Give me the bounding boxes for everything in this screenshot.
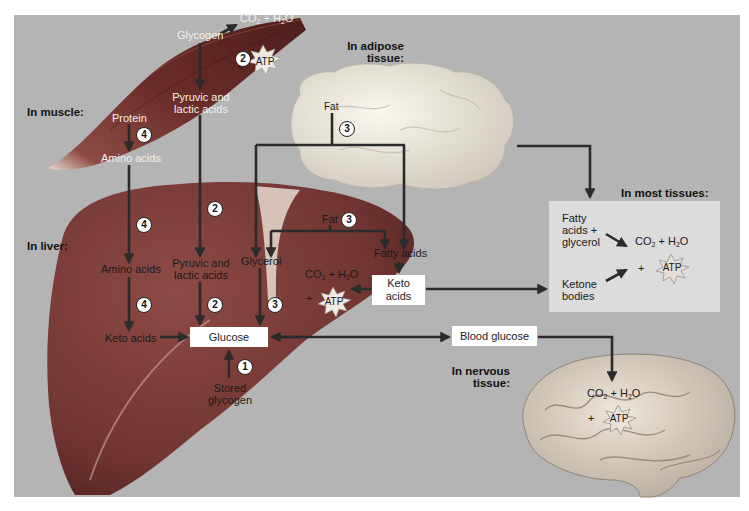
step-2-muscle-glycogen: 2 bbox=[235, 51, 251, 67]
most-tissues-products-label: CO2 + H2O bbox=[635, 235, 688, 251]
region-label-adipose-line1: In adipose bbox=[342, 40, 404, 52]
most-tissues-fatty-line1: Fatty bbox=[562, 212, 600, 224]
keto-acids-box: Keto acids bbox=[372, 275, 425, 305]
muscle-glycogen-label: Glycogen bbox=[177, 29, 223, 41]
step-4-muscle-protein: 4 bbox=[136, 127, 152, 143]
stored-glycogen-label: Stored glycogen bbox=[208, 382, 252, 406]
nervous-atp-label: ATP bbox=[609, 413, 629, 425]
region-label-most-tissues: In most tissues: bbox=[621, 187, 709, 199]
liver-keto-acids-label: Keto acids bbox=[105, 332, 156, 344]
muscle-protein-label: Protein bbox=[112, 112, 147, 124]
keto-acids-box-line1: Keto bbox=[386, 277, 412, 290]
region-label-nervous: In nervous tissue: bbox=[446, 365, 510, 389]
most-tissues-fatty-line3: glycerol bbox=[562, 236, 600, 248]
most-tissues-ketone-line1: Ketone bbox=[562, 278, 597, 290]
region-label-muscle: In muscle: bbox=[27, 106, 84, 118]
most-tissues-ketone-label: Ketone bodies bbox=[562, 278, 597, 302]
step-4-amino-to-keto: 4 bbox=[136, 297, 152, 313]
blood-glucose-box: Blood glucose bbox=[452, 326, 537, 346]
liver-pyruvic-line1: Pyruvic and bbox=[170, 257, 232, 269]
adipose-illustration bbox=[291, 63, 514, 189]
muscle-pyruvic-line2: lactic acids bbox=[170, 103, 232, 115]
muscle-pyruvic-line1: Pyruvic and bbox=[170, 91, 232, 103]
liver-fatty-acids-label: Fatty acids bbox=[374, 247, 427, 259]
step-1-glycogen-to-glucose: 1 bbox=[237, 359, 253, 375]
region-label-nervous-line2: tissue: bbox=[446, 377, 510, 389]
stored-glycogen-line1: Stored bbox=[208, 382, 252, 394]
stored-glycogen-line2: glycogen bbox=[208, 394, 252, 406]
muscle-pyruvic-label: Pyruvic and lactic acids bbox=[170, 91, 232, 115]
liver-glycerol-label: Glycerol bbox=[241, 255, 281, 267]
glucose-box: Glucose bbox=[190, 327, 268, 347]
most-tissues-plus: + bbox=[638, 262, 644, 274]
liver-pyruvic-label: Pyruvic and lactic acids bbox=[170, 257, 232, 281]
muscle-products-label: CO2 + H2O bbox=[240, 12, 293, 28]
most-tissues-atp-label: ATP bbox=[662, 262, 682, 274]
liver-amino-acids-label: Amino acids bbox=[101, 263, 161, 275]
most-tissues-ketone-line2: bodies bbox=[562, 290, 597, 302]
region-label-adipose: In adipose tissue: bbox=[342, 40, 404, 64]
muscle-atp-label: ATP bbox=[255, 56, 275, 68]
liver-products-label: CO2 + H2O bbox=[305, 268, 358, 284]
most-tissues-fatty-acids-label: Fatty acids + glycerol bbox=[562, 212, 600, 248]
most-tissues-fatty-line2: acids + bbox=[562, 224, 600, 236]
liver-fat-label: Fat bbox=[322, 213, 338, 225]
step-2-pyruvic-to-glucose: 2 bbox=[207, 297, 223, 313]
liver-plus: + bbox=[306, 292, 312, 304]
keto-acids-box-line2: acids bbox=[386, 290, 412, 303]
nervous-products-label: CO2 + H2O bbox=[587, 387, 640, 403]
muscle-amino-acids-label: Amino acids bbox=[101, 152, 161, 164]
step-3-liver-fat: 3 bbox=[341, 212, 357, 228]
step-3-glycerol-to-glucose: 3 bbox=[267, 297, 283, 313]
region-label-nervous-line1: In nervous bbox=[446, 365, 510, 377]
liver-atp-label: ATP bbox=[324, 296, 344, 308]
region-label-liver: In liver: bbox=[27, 240, 68, 252]
step-3-adipose-fat: 3 bbox=[339, 121, 355, 137]
nervous-plus: + bbox=[588, 412, 594, 424]
step-4-amino-to-liver: 4 bbox=[136, 217, 152, 233]
liver-pyruvic-line2: lactic acids bbox=[170, 269, 232, 281]
adipose-fat-label: Fat bbox=[324, 101, 338, 113]
step-2-pyruvic-to-liver: 2 bbox=[207, 201, 223, 217]
region-label-adipose-line2: tissue: bbox=[342, 52, 404, 64]
